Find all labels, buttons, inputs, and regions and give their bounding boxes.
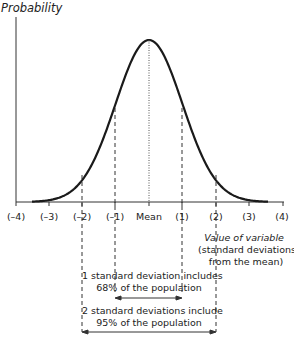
two-sd-annotation-line2: 95% of the population [82,317,216,328]
x-axis-sublabel-1: (standard deviations [198,244,294,255]
one-sd-arrow [115,296,182,300]
one-sd-annotation-line2: 68% of the population [82,282,216,293]
tick-label: (–2) [68,211,96,222]
tick-label: (–4) [2,211,30,222]
tick-label: (1) [168,211,196,222]
tick-label: (–1) [101,211,129,222]
two-sd-annotation-line1: 2 standard deviations include [82,305,216,316]
tick-label: (4) [268,211,294,222]
tick-label-mean: Mean [131,211,167,222]
one-sd-annotation-line1: 1 standard deviation includes [82,270,216,281]
tick-label: (3) [235,211,263,222]
x-axis-label: Value of variable [198,232,290,243]
y-axis-label: Probability [1,1,62,15]
x-axis-sublabel-2: from the mean) [198,256,294,267]
x-axis-ticks [16,202,283,206]
bell-curve [32,40,268,202]
tick-label: (2) [202,211,230,222]
two-sd-arrow [82,330,216,334]
tick-label: (–3) [35,211,63,222]
